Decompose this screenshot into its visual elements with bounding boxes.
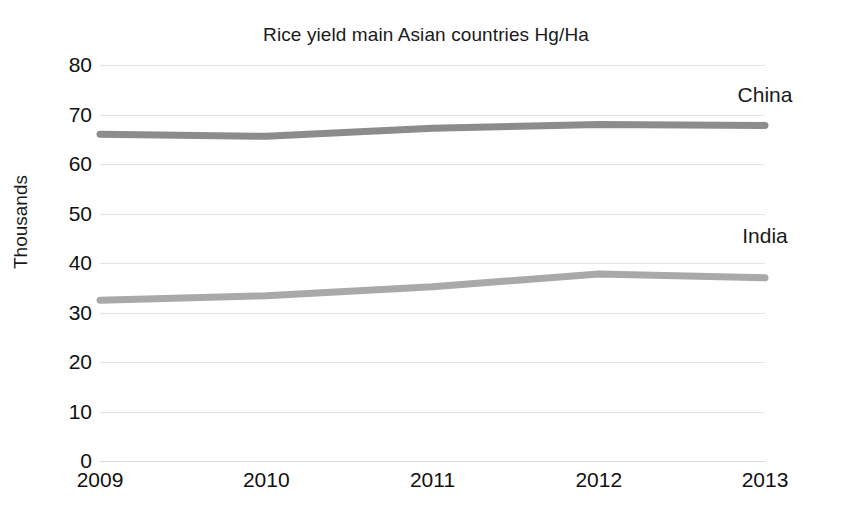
series-label-india: India xyxy=(742,224,788,248)
x-tick-label-2011: 2011 xyxy=(410,468,455,492)
y-tick-label-80: 80 xyxy=(16,53,92,77)
y-tick-label-70: 70 xyxy=(16,103,92,127)
series-label-china: China xyxy=(738,83,793,107)
x-tick-label-2013: 2013 xyxy=(742,468,789,492)
x-tick-label-2010: 2010 xyxy=(243,468,290,492)
x-tick-label-2009: 2009 xyxy=(77,468,124,492)
y-tick-label-30: 30 xyxy=(16,301,92,325)
y-tick-label-60: 60 xyxy=(16,152,92,176)
y-tick-label-10: 10 xyxy=(16,400,92,424)
gridline-0 xyxy=(100,461,765,462)
plot-area: ChinaIndia xyxy=(100,65,765,461)
line-chart: Rice yield main Asian countries Hg/Ha Th… xyxy=(0,0,852,513)
y-tick-label-40: 40 xyxy=(16,251,92,275)
y-tick-label-20: 20 xyxy=(16,350,92,374)
series-line-india xyxy=(100,274,765,300)
y-tick-label-50: 50 xyxy=(16,202,92,226)
chart-title: Rice yield main Asian countries Hg/Ha xyxy=(0,24,852,46)
y-axis-tick-labels: 01020304050607080 xyxy=(0,65,92,461)
x-axis-tick-labels: 20092010201120122013 xyxy=(100,468,765,508)
x-tick-label-2012: 2012 xyxy=(575,468,622,492)
series-line-china xyxy=(100,124,765,136)
series-lines xyxy=(100,65,765,461)
